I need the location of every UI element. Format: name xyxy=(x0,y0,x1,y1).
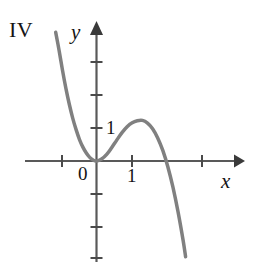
x-axis-arrowhead xyxy=(234,155,245,168)
figure-panel: IV y x 0 1 1 xyxy=(0,0,258,271)
y-axis-name-label: y xyxy=(71,22,80,43)
function-curve xyxy=(56,32,186,256)
y-axis xyxy=(90,21,103,262)
x-axis-name-label: x xyxy=(221,171,230,192)
x-axis-tick-label-1: 1 xyxy=(127,166,137,185)
plot-canvas xyxy=(0,0,258,271)
panel-identifier-label: IV xyxy=(9,19,33,41)
y-axis-arrowhead xyxy=(90,21,103,35)
y-axis-tick-label-1: 1 xyxy=(106,118,116,137)
origin-tick-label: 0 xyxy=(78,164,88,183)
